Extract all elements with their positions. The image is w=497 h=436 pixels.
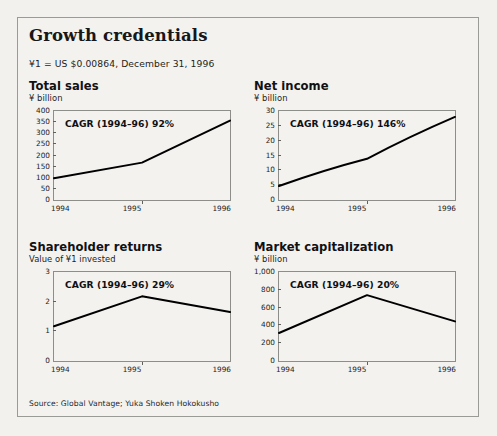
series-line [53, 110, 231, 201]
x-axis-tick-label: 1995 [123, 204, 142, 213]
series-line [53, 271, 231, 362]
y-axis-tick-label: 30 [266, 106, 275, 115]
page-title: Growth credentials [29, 26, 208, 45]
y-axis-tick-label: 350 [36, 117, 50, 126]
y-axis: 1,0008006004002000 [254, 267, 275, 383]
y-axis-tick-label: 100 [36, 172, 50, 181]
y-axis-tick-label: 800 [261, 284, 275, 293]
chart-subtitle: ¥ billion [254, 254, 288, 264]
y-axis: 400350300250200150100500 [29, 106, 50, 222]
y-axis-tick-label: 0 [270, 195, 275, 204]
source-note: Source: Global Vantage; Yuka Shoken Hoko… [29, 399, 219, 408]
y-axis-tick-label: 200 [261, 338, 275, 347]
series-line [278, 110, 456, 201]
y-axis-tick-label: 25 [266, 120, 275, 129]
x-axis-tick-label: 1996 [212, 365, 231, 374]
chart-subtitle: Value of ¥1 invested [29, 254, 116, 264]
plot-area: 400350300250200150100500199419951996CAGR… [29, 106, 235, 222]
y-axis-tick-label: 20 [266, 135, 275, 144]
x-axis-tick-label: 1995 [123, 365, 142, 374]
plot-area: 3210199419951996CAGR (1994–96) 29% [29, 267, 235, 383]
x-axis-tick-mark [142, 201, 143, 204]
y-axis-tick-label: 0 [270, 356, 275, 365]
chart-title: Total sales [29, 79, 99, 93]
chart-panel-market-capitalization: Market capitalization ¥ billion 1,000800… [254, 240, 460, 383]
x-axis-tick-label: 1994 [276, 365, 295, 374]
y-axis-tick-label: 600 [261, 302, 275, 311]
y-axis-tick-label: 400 [36, 106, 50, 115]
y-axis-tick-label: 2 [45, 296, 50, 305]
y-axis-tick-label: 200 [36, 150, 50, 159]
plot-area: 302520151050199419951996CAGR (1994–96) 1… [254, 106, 460, 222]
y-axis: 3210 [29, 267, 50, 383]
x-axis-tick-label: 1996 [437, 365, 456, 374]
x-axis-tick-mark [367, 201, 368, 204]
chart-title: Shareholder returns [29, 240, 162, 254]
chart-subtitle: ¥ billion [29, 93, 63, 103]
x-axis-tick-label: 1996 [212, 204, 231, 213]
y-axis-tick-label: 15 [266, 150, 275, 159]
y-axis-tick-label: 400 [261, 320, 275, 329]
y-axis-tick-label: 0 [45, 356, 50, 365]
x-axis-tick-mark [367, 362, 368, 365]
y-axis-tick-label: 300 [36, 128, 50, 137]
chart-title: Market capitalization [254, 240, 394, 254]
chart-panel-shareholder-returns: Shareholder returns Value of ¥1 invested… [29, 240, 235, 383]
y-axis-tick-label: 250 [36, 139, 50, 148]
plot-area: 1,0008006004002000199419951996CAGR (1994… [254, 267, 460, 383]
x-axis-tick-label: 1994 [276, 204, 295, 213]
y-axis-tick-label: 1 [45, 326, 50, 335]
exhibit-panel: Growth credentials ¥1 = US $0.00864, Dec… [17, 17, 479, 417]
x-axis-tick-label: 1995 [348, 365, 367, 374]
y-axis-tick-label: 50 [41, 183, 50, 192]
y-axis-tick-label: 5 [270, 180, 275, 189]
y-axis-tick-label: 1,000 [254, 267, 275, 276]
chart-title: Net income [254, 79, 329, 93]
series-line [278, 271, 456, 362]
x-axis-tick-label: 1996 [437, 204, 456, 213]
y-axis-tick-label: 3 [45, 267, 50, 276]
y-axis-tick-label: 0 [45, 195, 50, 204]
exchange-rate-note: ¥1 = US $0.00864, December 31, 1996 [29, 58, 214, 69]
x-axis-tick-label: 1995 [348, 204, 367, 213]
chart-panel-net-income: Net income ¥ billion 3025201510501994199… [254, 79, 460, 222]
y-axis-tick-label: 150 [36, 161, 50, 170]
y-axis-tick-label: 10 [266, 165, 275, 174]
chart-panel-total-sales: Total sales ¥ billion 400350300250200150… [29, 79, 235, 222]
x-axis-tick-mark [142, 362, 143, 365]
y-axis: 302520151050 [254, 106, 275, 222]
x-axis-tick-label: 1994 [51, 204, 70, 213]
x-axis-tick-label: 1994 [51, 365, 70, 374]
chart-subtitle: ¥ billion [254, 93, 288, 103]
